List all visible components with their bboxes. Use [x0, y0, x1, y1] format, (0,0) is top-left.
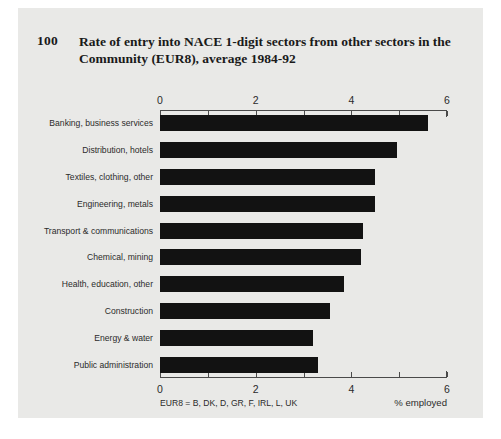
bar	[160, 330, 313, 346]
bottom-axis-line	[160, 377, 447, 378]
bar-row: Health, education, other	[160, 276, 447, 292]
axis-tick-label: 4	[348, 383, 354, 395]
chart-footnote: EUR8 = B, DK, D, GR, F, IRL, L, UK	[160, 398, 297, 408]
bar	[160, 169, 375, 185]
figure-panel: 100 Rate of entry into NACE 1-digit sect…	[18, 8, 483, 418]
axis-tick-label: 6	[444, 383, 450, 395]
axis-tick-label: 0	[157, 94, 163, 106]
axis-tick-label: 0	[157, 383, 163, 395]
bar-row: Textiles, clothing, other	[160, 169, 447, 185]
figure-title: Rate of entry into NACE 1-digit sectors …	[79, 33, 457, 67]
category-label: Engineering, metals	[77, 199, 153, 209]
x-axis-label: % employed	[394, 397, 447, 408]
category-label: Public administration	[74, 360, 153, 370]
axis-tick	[304, 372, 305, 377]
axis-tick-label: 6	[444, 94, 450, 106]
axis-tick-label: 2	[253, 94, 259, 106]
chart-plot-area: 0246 0246 Banking, business servicesDist…	[160, 110, 447, 378]
bar	[160, 249, 361, 265]
bar-row: Distribution, hotels	[160, 142, 447, 158]
axis-tick	[447, 372, 448, 377]
category-label: Energy & water	[94, 333, 153, 343]
bar-row: Banking, business services	[160, 115, 447, 131]
category-label: Chemical, mining	[87, 252, 153, 262]
axis-tick	[351, 372, 352, 377]
bar	[160, 223, 363, 239]
category-label: Banking, business services	[49, 118, 153, 128]
axis-tick	[447, 111, 448, 116]
axis-tick	[399, 372, 400, 377]
bar-row: Chemical, mining	[160, 249, 447, 265]
bar-row: Public administration	[160, 357, 447, 373]
axis-tick-label: 2	[253, 383, 259, 395]
bar-row: Construction	[160, 303, 447, 319]
bar	[160, 276, 344, 292]
category-label: Health, education, other	[62, 279, 153, 289]
bar	[160, 196, 375, 212]
bar	[160, 115, 428, 131]
category-label: Textiles, clothing, other	[66, 172, 153, 182]
axis-tick	[208, 372, 209, 377]
bar	[160, 142, 397, 158]
category-label: Construction	[105, 306, 153, 316]
figure-number: 100	[37, 33, 58, 49]
axis-tick	[256, 372, 257, 377]
axis-tick-label: 4	[348, 94, 354, 106]
category-label: Distribution, hotels	[82, 145, 153, 155]
bar-row: Transport & communications	[160, 223, 447, 239]
bar	[160, 303, 330, 319]
axis-tick	[160, 372, 161, 377]
bar-row: Energy & water	[160, 330, 447, 346]
figure-heading: 100 Rate of entry into NACE 1-digit sect…	[37, 33, 457, 67]
bar-row: Engineering, metals	[160, 196, 447, 212]
bar	[160, 357, 318, 373]
category-label: Transport & communications	[44, 226, 153, 236]
